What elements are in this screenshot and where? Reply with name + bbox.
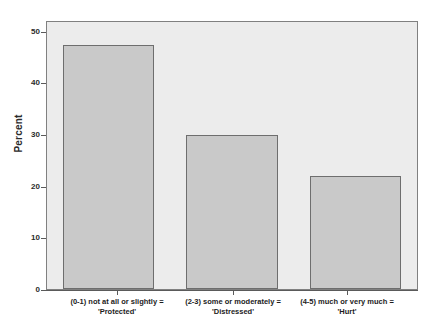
x-tick-label-distressed-line1: (2-3) some or moderately =: [185, 297, 281, 306]
x-axis-line: [46, 290, 418, 291]
bar-protected[interactable]: [63, 45, 154, 289]
x-tick-label-hurt: (4-5) much or very much = 'Hurt': [277, 297, 417, 317]
y-tick-label-40: 40: [14, 79, 40, 87]
x-tick-mark-0: [117, 291, 118, 295]
y-tick-label-30: 30: [14, 131, 40, 139]
bar-chart: Percent 0 10 20 30 40 50 (0-1) not at al…: [0, 0, 434, 331]
x-tick-label-hurt-line1: (4-5) much or very much =: [300, 297, 394, 306]
plot-area: [46, 21, 418, 290]
x-tick-mark-2: [347, 291, 348, 295]
y-tick-label-0: 0: [14, 286, 40, 294]
y-tick-label-50: 50: [14, 28, 40, 36]
x-tick-mark-1: [233, 291, 234, 295]
x-tick-label-protected-line1: (0-1) not at all or slightly =: [70, 297, 163, 306]
bar-distressed[interactable]: [186, 135, 277, 289]
y-tick-label-20: 20: [14, 183, 40, 191]
y-tick-label-10: 10: [14, 234, 40, 242]
x-tick-label-hurt-line2: 'Hurt': [277, 307, 417, 317]
bar-hurt[interactable]: [310, 176, 401, 289]
